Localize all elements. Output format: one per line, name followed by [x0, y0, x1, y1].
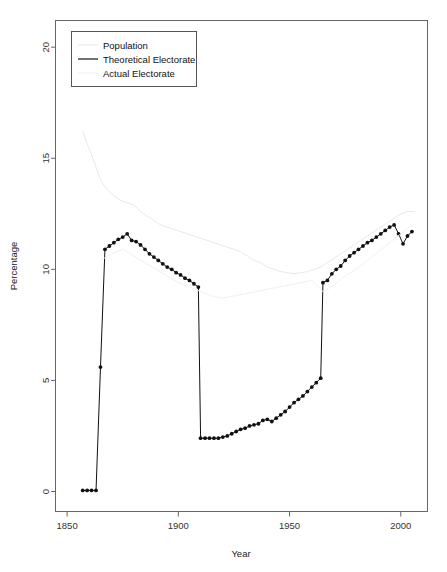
data-point: [139, 243, 143, 247]
data-point: [216, 436, 220, 440]
y-tick-label: 5: [40, 378, 51, 383]
data-point: [314, 381, 318, 385]
data-point: [383, 229, 387, 233]
data-point: [156, 259, 160, 263]
data-point: [179, 273, 183, 277]
data-point: [319, 376, 323, 380]
data-point: [248, 424, 252, 428]
data-point: [107, 244, 111, 248]
data-point: [410, 230, 414, 234]
y-tick-label: 15: [40, 153, 51, 164]
data-point: [94, 488, 98, 492]
data-point: [99, 365, 103, 369]
x-axis-title: Year: [231, 548, 250, 559]
data-point: [103, 247, 107, 251]
x-tick-label: 2000: [390, 520, 411, 531]
data-point: [116, 237, 120, 241]
data-point: [310, 385, 314, 389]
data-point: [379, 232, 383, 236]
data-point: [265, 417, 269, 421]
data-point: [143, 247, 147, 251]
data-point: [130, 239, 134, 243]
data-point: [225, 434, 229, 438]
data-point: [170, 267, 174, 271]
data-point: [297, 397, 301, 401]
data-point: [221, 435, 225, 439]
line-chart-canvas: 05101520 1850190019502000 Percentage Yea…: [0, 0, 447, 572]
data-point: [283, 410, 287, 414]
data-point: [366, 241, 370, 245]
figure-background: [0, 0, 447, 572]
data-point: [243, 426, 247, 430]
data-point: [374, 235, 378, 239]
data-point: [343, 259, 347, 263]
data-point: [199, 436, 203, 440]
data-point: [121, 235, 125, 239]
data-point: [183, 276, 187, 280]
data-point: [257, 422, 261, 426]
x-tick-label: 1850: [57, 520, 78, 531]
data-point: [274, 416, 278, 420]
data-point: [288, 405, 292, 409]
data-point: [252, 423, 256, 427]
x-tick-label: 1900: [168, 520, 189, 531]
data-point: [406, 234, 410, 238]
data-point: [321, 281, 325, 285]
data-point: [125, 232, 129, 236]
data-point: [370, 239, 374, 243]
data-point: [212, 436, 216, 440]
data-point: [361, 244, 365, 248]
data-point: [270, 420, 274, 424]
data-point: [81, 488, 85, 492]
data-point: [334, 267, 338, 271]
data-point: [330, 272, 334, 276]
data-point: [301, 394, 305, 398]
y-tick-label: 10: [40, 264, 51, 275]
data-point: [352, 251, 356, 255]
data-point: [188, 279, 192, 283]
data-point: [401, 242, 405, 246]
data-point: [348, 254, 352, 258]
data-point: [208, 436, 212, 440]
y-tick-label: 20: [40, 42, 51, 53]
data-point: [152, 255, 156, 259]
data-point: [339, 264, 343, 268]
data-point: [230, 432, 234, 436]
data-point: [148, 252, 152, 256]
data-point: [234, 430, 238, 434]
data-point: [196, 285, 200, 289]
y-tick-label: 0: [40, 489, 51, 494]
data-point: [261, 419, 265, 423]
data-point: [292, 401, 296, 405]
data-point: [85, 488, 89, 492]
x-tick-label: 1950: [279, 520, 300, 531]
data-point: [90, 488, 94, 492]
legend-label-1: Theoretical Electorate: [103, 54, 195, 65]
data-point: [392, 223, 396, 227]
data-point: [203, 436, 207, 440]
data-point: [165, 265, 169, 269]
chart-figure: 05101520 1850190019502000 Percentage Yea…: [0, 0, 447, 572]
data-point: [112, 241, 116, 245]
data-point: [305, 390, 309, 394]
data-point: [388, 225, 392, 229]
y-axis-title: Percentage: [8, 242, 19, 291]
data-point: [174, 271, 178, 275]
data-point: [325, 279, 329, 283]
data-point: [134, 240, 138, 244]
data-point: [192, 282, 196, 286]
data-point: [357, 247, 361, 251]
legend-label-2: Actual Electorate: [103, 68, 175, 79]
legend-label-0: Population: [103, 40, 148, 51]
data-point: [239, 427, 243, 431]
chart-legend: PopulationTheoretical ElectorateActual E…: [72, 32, 197, 87]
data-point: [161, 262, 165, 266]
data-point: [279, 413, 283, 417]
